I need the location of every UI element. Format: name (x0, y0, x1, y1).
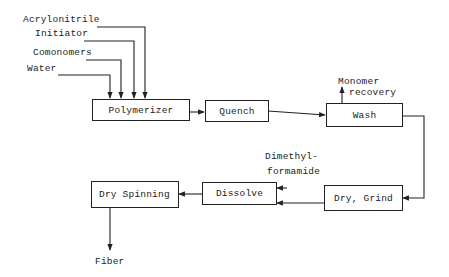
monomer-recovery-label-line1: Monomer (338, 76, 379, 87)
monomer-recovery-label-line2: recovery (349, 87, 396, 98)
output-label-fiber: Fiber (95, 256, 125, 267)
solvent-label-line1: Dimethyl- (265, 151, 318, 162)
solvent-label-line2: formamide (267, 166, 320, 177)
flow-connectors (0, 0, 449, 277)
node-label: Dry, Grind (334, 193, 393, 204)
node-wash: Wash (326, 103, 403, 127)
node-label: Wash (353, 110, 377, 121)
input-label-water: Water (27, 63, 57, 74)
node-dissolve: Dissolve (202, 182, 277, 205)
node-label: Dissolve (216, 188, 263, 199)
comonomers-feed-line (86, 60, 121, 98)
node-dry-spinning: Dry Spinning (91, 181, 179, 208)
node-polymerizer: Polymerizer (92, 99, 190, 121)
input-label-initiator: Initiator (35, 28, 88, 39)
water-feed-line (58, 75, 110, 98)
node-dry-grind: Dry, Grind (324, 185, 403, 211)
quench-to-wash-line (268, 111, 325, 115)
node-label: Quench (219, 106, 254, 117)
node-label: Dry Spinning (99, 189, 170, 200)
wash-to-drygrind-line (402, 116, 424, 198)
input-label-comonomers: Comonomers (33, 47, 92, 58)
node-quench: Quench (205, 100, 269, 122)
input-label-acrylonitrile: Acrylonitrile (23, 14, 100, 25)
node-label: Polymerizer (109, 105, 174, 116)
